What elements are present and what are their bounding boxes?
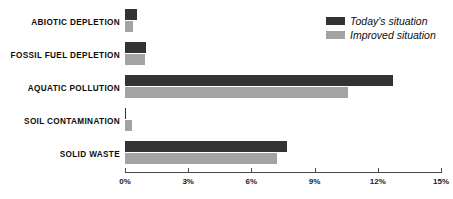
bar-improved-soil-contamination [125,120,132,131]
bar-today-aquatic-pollution [125,75,393,86]
chart-legend: Today's situation Improved situation [326,14,436,42]
x-axis-tick-3pct [188,168,189,173]
legend-swatch-today-icon [326,17,345,25]
bar-today-soil-contamination [125,108,126,119]
bar-improved-fossil-fuel-depletion [125,54,145,65]
x-axis-tick-label-6pct: 6% [246,177,258,186]
x-axis-tick-label-12pct: 12% [370,177,386,186]
x-axis-tick-label-0pct: 0% [119,177,131,186]
bar-improved-aquatic-pollution [125,87,348,98]
category-label-aquatic-pollution: AQUATIC POLLUTION [2,84,120,94]
bar-improved-solid-waste [125,153,277,164]
legend-swatch-improved-icon [326,31,345,39]
x-axis-tick-label-9pct: 9% [309,177,321,186]
horizontal-bar-chart: ABIOTIC DEPLETION FOSSIL FUEL DEPLETION … [0,0,453,199]
x-axis-tick-label-3pct: 3% [182,177,194,186]
legend-item-today: Today's situation [326,14,436,28]
category-label-solid-waste: SOLID WASTE [2,150,120,160]
category-label-fossil-fuel-depletion: FOSSIL FUEL DEPLETION [2,51,120,61]
category-label-abiotic-depletion: ABIOTIC DEPLETION [2,18,120,28]
x-axis-tick-12pct [378,168,379,173]
category-label-soil-contamination: SOIL CONTAMINATION [2,117,120,127]
legend-label-today: Today's situation [350,15,428,27]
legend-label-improved: Improved situation [350,29,436,41]
x-axis-tick-label-15pct: 15% [433,177,449,186]
x-axis-tick-0pct [125,168,126,173]
legend-item-improved: Improved situation [326,28,436,42]
bar-today-abiotic-depletion [125,9,137,20]
bar-today-fossil-fuel-depletion [125,42,146,53]
x-axis-tick-15pct [441,168,442,173]
x-axis-tick-6pct [251,168,252,173]
bar-improved-abiotic-depletion [125,21,133,32]
x-axis-tick-9pct [315,168,316,173]
bar-today-solid-waste [125,141,287,152]
x-axis-line [125,172,441,173]
